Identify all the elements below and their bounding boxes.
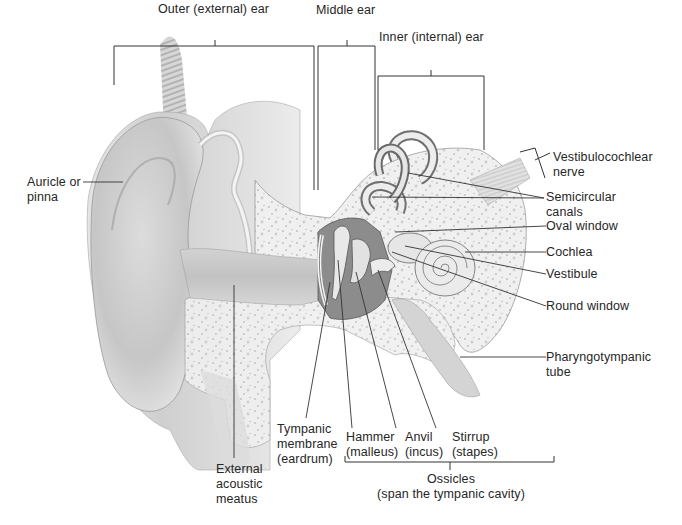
label-stirrup: Stirrup (stapes) [452,430,498,460]
label-oval-window: Oval window [546,219,618,234]
label-middle-ear: Middle ear [316,3,375,18]
label-tympanic-membrane: Tympanic membrane (eardrum) [277,422,338,467]
ear-anatomy-diagram: Outer (external) ear Middle ear Inner (i… [0,0,682,525]
label-outer-ear: Outer (external) ear [158,2,269,17]
label-cochlea: Cochlea [546,245,593,260]
label-vestibulocochlear-nerve: Vestibulocochlear nerve [553,150,653,180]
label-hammer: Hammer (malleus) [346,430,398,460]
label-vestibule: Vestibule [546,267,598,282]
cochlea-shape [415,240,475,296]
ear-illustration [0,0,682,525]
label-external-acoustic-meatus: External acoustic meatus [216,462,263,507]
label-anvil: Anvil (incus) [405,430,443,460]
label-inner-ear: Inner (internal) ear [379,30,484,45]
label-round-window: Round window [546,299,629,314]
label-ossicles: Ossicles (span the tympanic cavity) [346,472,556,502]
label-semicircular-canals: Semicircular canals [546,190,616,220]
label-pharyngotympanic-tube: Pharyngotympanic tube [546,350,651,380]
label-auricle: Auricle or pinna [27,175,81,205]
